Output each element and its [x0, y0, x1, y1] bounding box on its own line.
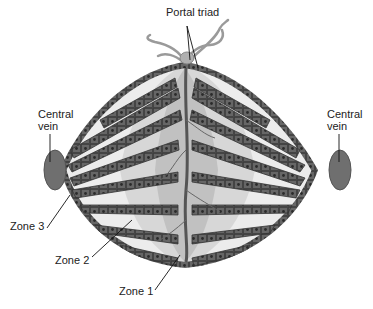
portal-triad-vessels — [148, 20, 228, 64]
label-zone-3: Zone 3 — [10, 220, 44, 232]
central-vein-left — [44, 150, 66, 190]
label-zone-2: Zone 2 — [55, 254, 89, 266]
label-central-vein-left-line1: Central — [38, 108, 73, 120]
lobule-body — [60, 62, 318, 268]
label-zone-1: Zone 1 — [119, 285, 153, 297]
central-vein-right — [329, 150, 351, 190]
label-central-vein-right-line2: vein — [327, 120, 347, 132]
label-central-vein-right-line1: Central — [327, 108, 362, 120]
label-portal-triad: Portal triad — [166, 6, 219, 18]
label-central-vein-left-line2: vein — [38, 120, 58, 132]
